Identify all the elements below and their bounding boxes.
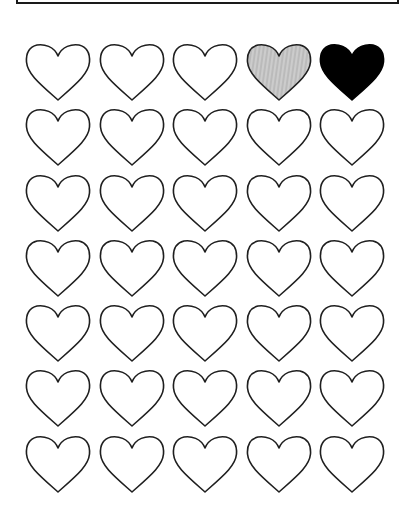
- heart-icon: [320, 436, 384, 494]
- heart-empty-r6c3[interactable]: [173, 370, 237, 428]
- heart-icon: [26, 436, 90, 494]
- heart-empty-r2c2[interactable]: [100, 109, 164, 167]
- heart-icon: [100, 44, 164, 102]
- heart-icon: [173, 370, 237, 428]
- heart-empty-r6c4[interactable]: [247, 370, 311, 428]
- heart-icon: [100, 109, 164, 167]
- heart-icon: [247, 109, 311, 167]
- heart-empty-r4c1[interactable]: [26, 240, 90, 298]
- heart-empty-r7c3[interactable]: [173, 436, 237, 494]
- heart-empty-r7c4[interactable]: [247, 436, 311, 494]
- heart-empty-r1c2[interactable]: [100, 44, 164, 102]
- heart-empty-r5c1[interactable]: [26, 305, 90, 363]
- heart-icon: [26, 305, 90, 363]
- heart-icon: [320, 305, 384, 363]
- heart-icon: [247, 44, 311, 102]
- heart-empty-r2c5[interactable]: [320, 109, 384, 167]
- heart-icon: [247, 370, 311, 428]
- heart-icon: [26, 370, 90, 428]
- heart-filled-r1c5[interactable]: [320, 44, 384, 102]
- heart-icon: [247, 305, 311, 363]
- heart-empty-r4c2[interactable]: [100, 240, 164, 298]
- heart-empty-r3c4[interactable]: [247, 175, 311, 233]
- heart-icon: [247, 175, 311, 233]
- heart-empty-r2c4[interactable]: [247, 109, 311, 167]
- heart-empty-r3c2[interactable]: [100, 175, 164, 233]
- heart-empty-r6c1[interactable]: [26, 370, 90, 428]
- heart-icon: [247, 240, 311, 298]
- heart-icon: [320, 175, 384, 233]
- heart-icon: [320, 370, 384, 428]
- heart-empty-r4c5[interactable]: [320, 240, 384, 298]
- heart-icon: [100, 370, 164, 428]
- heart-empty-r7c2[interactable]: [100, 436, 164, 494]
- heart-empty-r6c2[interactable]: [100, 370, 164, 428]
- heart-empty-r1c3[interactable]: [173, 44, 237, 102]
- heart-icon: [100, 305, 164, 363]
- heart-icon: [100, 240, 164, 298]
- heart-empty-r2c3[interactable]: [173, 109, 237, 167]
- heart-icon: [26, 109, 90, 167]
- heart-icon: [100, 175, 164, 233]
- heart-empty-r5c3[interactable]: [173, 305, 237, 363]
- header-box: [16, 0, 399, 4]
- heart-empty-r2c1[interactable]: [26, 109, 90, 167]
- heart-empty-r5c5[interactable]: [320, 305, 384, 363]
- heart-icon: [247, 436, 311, 494]
- heart-empty-r7c1[interactable]: [26, 436, 90, 494]
- heart-empty-r3c5[interactable]: [320, 175, 384, 233]
- heart-empty-r4c3[interactable]: [173, 240, 237, 298]
- heart-icon: [26, 240, 90, 298]
- heart-icon: [26, 175, 90, 233]
- heart-empty-r4c4[interactable]: [247, 240, 311, 298]
- heart-icon: [173, 305, 237, 363]
- heart-icon: [173, 44, 237, 102]
- heart-empty-r7c5[interactable]: [320, 436, 384, 494]
- heart-empty-r5c2[interactable]: [100, 305, 164, 363]
- heart-icon: [320, 109, 384, 167]
- heart-empty-r3c3[interactable]: [173, 175, 237, 233]
- heart-icon: [173, 175, 237, 233]
- heart-shaded-r1c4[interactable]: [247, 44, 311, 102]
- heart-icon: [100, 436, 164, 494]
- heart-empty-r6c5[interactable]: [320, 370, 384, 428]
- heart-icon: [320, 240, 384, 298]
- heart-empty-r3c1[interactable]: [26, 175, 90, 233]
- heart-icon: [320, 44, 384, 102]
- heart-icon: [26, 44, 90, 102]
- heart-icon: [173, 109, 237, 167]
- heart-icon: [173, 240, 237, 298]
- heart-empty-r5c4[interactable]: [247, 305, 311, 363]
- heart-icon: [173, 436, 237, 494]
- heart-empty-r1c1[interactable]: [26, 44, 90, 102]
- heart-grid: [26, 44, 384, 493]
